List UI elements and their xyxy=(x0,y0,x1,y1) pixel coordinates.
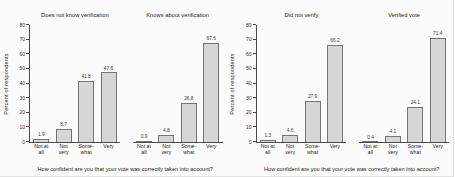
bar-rect xyxy=(33,139,49,142)
y-tick-mark xyxy=(253,112,256,113)
category-label: Not at all xyxy=(364,144,378,156)
panel: Does not know verification01020304050607… xyxy=(29,25,120,143)
bar: 4.8 xyxy=(158,135,174,142)
y-tick-mark xyxy=(253,141,256,142)
y-tick-mark xyxy=(26,53,29,54)
y-tick-label: 20 xyxy=(240,110,252,115)
y-tick-label: 70 xyxy=(240,37,252,42)
y-tick-label: 60 xyxy=(240,52,252,57)
bar: 41.8 xyxy=(78,81,94,142)
bar-value-label: 4.1 xyxy=(390,130,397,135)
bar-rect xyxy=(136,141,152,142)
bar-value-label: 71.4 xyxy=(433,32,442,37)
y-tick-label: 40 xyxy=(13,81,25,86)
bar-value-label: 8.7 xyxy=(60,123,67,128)
y-tick-mark xyxy=(26,112,29,113)
bar-rect xyxy=(203,43,219,142)
y-tick-label: 0 xyxy=(13,140,25,145)
y-tick-label: 80 xyxy=(240,23,252,28)
bar-rect xyxy=(385,136,401,142)
panel: Knows about verification0.9Not at all4.8… xyxy=(133,25,223,143)
plot-row: Did not verify010203040506070801.3Not at… xyxy=(256,25,450,143)
y-tick-mark xyxy=(26,97,29,98)
y-tick-label: 80 xyxy=(13,23,25,28)
y-tick-label: 60 xyxy=(13,52,25,57)
bar-rect xyxy=(260,140,276,142)
bar-value-label: 27.9 xyxy=(308,95,317,100)
bar: 27.9 xyxy=(305,101,321,142)
category-label: Very xyxy=(103,144,113,150)
y-axis-label: Percent of respondents xyxy=(0,25,11,143)
bar-value-label: 1.3 xyxy=(264,134,271,139)
plot-row: Does not know verification01020304050607… xyxy=(29,25,223,143)
figure-group: Percent of respondentsDoes not know veri… xyxy=(0,0,227,176)
y-tick-mark xyxy=(253,83,256,84)
y-tick-label: 10 xyxy=(240,125,252,130)
bar-value-label: 41.8 xyxy=(81,75,90,80)
y-tick-label: 10 xyxy=(13,125,25,130)
bar-value-label: 4.8 xyxy=(163,129,170,134)
x-axis-label: How confident are you that your vote was… xyxy=(251,166,454,172)
bar: 67.6 xyxy=(203,43,219,142)
bar: 66.2 xyxy=(327,45,343,142)
bar-value-label: 47.6 xyxy=(104,67,113,72)
bar-rect xyxy=(158,135,174,142)
y-tick-label: 40 xyxy=(240,81,252,86)
panel: Verified vote0.4Not at all4.1Not very24.… xyxy=(359,25,449,143)
bar: 4.1 xyxy=(385,136,401,142)
y-tick-label: 30 xyxy=(13,96,25,101)
panel-title: Knows about verification xyxy=(127,12,229,18)
y-tick-label: 30 xyxy=(240,96,252,101)
category-label: Not at all xyxy=(34,144,48,156)
y-tick-label: 50 xyxy=(13,66,25,71)
category-label: Not very xyxy=(59,144,69,156)
category-label: Not very xyxy=(162,144,172,156)
bar-value-label: 4.6 xyxy=(287,129,294,134)
y-tick-mark xyxy=(253,39,256,40)
category-label: Very xyxy=(330,144,340,150)
bar-rect xyxy=(56,129,72,142)
chart-root: Percent of respondentsDoes not know veri… xyxy=(0,0,453,176)
y-tick-mark xyxy=(26,24,29,25)
category-label: Not at all xyxy=(261,144,275,156)
y-tick-mark xyxy=(26,141,29,142)
category-label: Not at all xyxy=(137,144,151,156)
y-tick-mark xyxy=(26,83,29,84)
bar: 0.4 xyxy=(362,141,378,142)
bar-value-label: 0.9 xyxy=(141,135,148,140)
bar: 0.9 xyxy=(136,141,152,142)
y-tick-mark xyxy=(26,68,29,69)
y-tick-label: 70 xyxy=(13,37,25,42)
panel-title: Verified vote xyxy=(353,12,455,18)
category-label: Some- what xyxy=(181,144,196,156)
bar-rect xyxy=(407,107,423,142)
category-label: Not very xyxy=(388,144,398,156)
bar-rect xyxy=(327,45,343,142)
y-axis-label: Percent of respondents xyxy=(227,25,238,143)
bar: 71.4 xyxy=(430,38,446,142)
category-label: Some- what xyxy=(305,144,320,156)
category-label: Some- what xyxy=(408,144,423,156)
panel: Did not verify010203040506070801.3Not at… xyxy=(256,25,347,143)
y-tick-mark xyxy=(26,39,29,40)
category-label: Very xyxy=(433,144,443,150)
y-tick-mark xyxy=(253,53,256,54)
category-label: Very xyxy=(206,144,216,150)
x-axis-label: How confident are you that your vote was… xyxy=(24,166,227,172)
bar: 8.7 xyxy=(56,129,72,142)
bar: 26.8 xyxy=(181,103,197,142)
bar: 47.6 xyxy=(101,72,117,142)
bar: 4.6 xyxy=(282,135,298,142)
bar-value-label: 24.1 xyxy=(411,101,420,106)
y-tick-mark xyxy=(26,126,29,127)
category-label: Some- what xyxy=(78,144,93,156)
bar-rect xyxy=(101,72,117,142)
bar: 1.9 xyxy=(33,139,49,142)
bar-rect xyxy=(305,101,321,142)
bar-rect xyxy=(181,103,197,142)
y-axis-label-text: Percent of respondents xyxy=(229,53,235,114)
bar-value-label: 67.6 xyxy=(207,37,216,42)
bar-value-label: 66.2 xyxy=(330,39,339,44)
panel-title: Does not know verification xyxy=(24,12,126,18)
y-tick-mark xyxy=(253,97,256,98)
